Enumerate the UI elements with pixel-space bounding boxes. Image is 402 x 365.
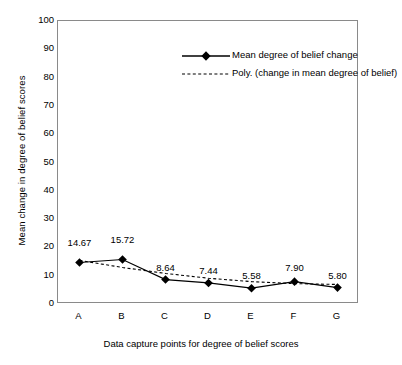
legend-label-trendline: Poly. (change in mean degree of belief): [232, 67, 397, 78]
x-tick-label: A: [64, 310, 94, 321]
x-tick-label: C: [150, 310, 180, 321]
y-tick-label: 100: [22, 15, 54, 25]
data-point-marker: [247, 284, 256, 293]
y-tick-label: 0: [22, 298, 54, 308]
y-axis-tick-labels: 1009080706050403020100: [18, 0, 54, 365]
data-point-marker: [161, 275, 170, 284]
data-label: 5.80: [316, 270, 360, 281]
solid-diamond-key-icon: [180, 48, 232, 60]
x-tick-label: B: [107, 310, 137, 321]
x-axis-title: Data capture points for degree of belief…: [36, 338, 366, 349]
data-label: 8.64: [144, 262, 188, 273]
x-tick-label: G: [322, 310, 352, 321]
data-label: 14.67: [58, 237, 102, 248]
y-tick-label: 20: [22, 241, 54, 251]
data-label: 7.44: [187, 265, 231, 276]
data-label: 5.58: [230, 270, 274, 281]
y-tick-label: 60: [22, 128, 54, 138]
y-tick-label: 10: [22, 270, 54, 280]
legend-label-mean-change: Mean degree of belief change: [232, 49, 358, 60]
y-tick-label: 50: [22, 157, 54, 167]
x-tick-label: D: [193, 310, 223, 321]
data-point-marker: [118, 255, 127, 264]
y-tick-label: 80: [22, 72, 54, 82]
legend-entry-trendline: Poly. (change in mean degree of belief): [180, 63, 402, 81]
data-label: 7.90: [273, 262, 317, 273]
data-label: 15.72: [101, 234, 145, 245]
legend-entry-mean-change: Mean degree of belief change: [180, 45, 402, 63]
plot-area: 14.6715.728.647.445.587.905.80 Mean degr…: [57, 20, 358, 303]
y-tick-label: 40: [22, 185, 54, 195]
y-tick-label: 90: [22, 43, 54, 53]
data-point-marker: [75, 258, 84, 267]
y-tick-label: 30: [22, 213, 54, 223]
x-tick-label: E: [236, 310, 266, 321]
data-point-marker: [204, 279, 213, 288]
x-tick-label: F: [279, 310, 309, 321]
data-point-marker: [290, 277, 299, 286]
chart-legend: Mean degree of belief change Poly. (chan…: [180, 45, 402, 81]
y-tick-label: 70: [22, 100, 54, 110]
dotted-line-key-icon: [180, 66, 232, 78]
